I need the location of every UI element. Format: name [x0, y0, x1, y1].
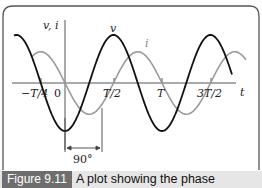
phase-plot: v, i t v i −T/4 0 T/2 T 3T/2 90° [0, 0, 262, 188]
tick-label-neg-quarter: −T/4 [21, 87, 48, 100]
x-axis-label: t [240, 86, 245, 99]
curve-label-v: v [110, 22, 117, 35]
tick-label-half: T/2 [103, 87, 121, 100]
y-axis-label: v, i [43, 19, 58, 32]
curve-label-i: i [145, 37, 149, 50]
figure-caption: Figure 9.11 A plot showing the phase [0, 171, 262, 188]
tick-label-three-half: 3T/2 [197, 87, 222, 100]
tick-label-zero: 0 [54, 87, 61, 100]
phase-dimension [65, 108, 102, 152]
x-ticks [41, 78, 211, 83]
phase-label: 90° [73, 153, 93, 166]
figure: v, i t v i −T/4 0 T/2 T 3T/2 90° Figure … [0, 0, 262, 188]
caption-text: A plot showing the phase [76, 171, 215, 188]
caption-label: Figure 9.11 [2, 171, 72, 188]
